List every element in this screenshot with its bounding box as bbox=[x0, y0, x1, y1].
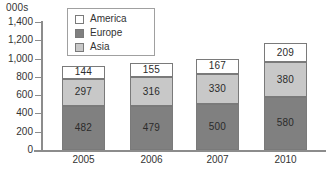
y-axis-tick-mark bbox=[35, 95, 41, 96]
bar-value-label: 380 bbox=[277, 75, 294, 85]
y-axis-tick-label: 1,000 bbox=[0, 53, 33, 64]
y-axis-tick-label: 1,200 bbox=[0, 34, 33, 45]
legend-label: America bbox=[90, 14, 127, 24]
bar-segment-america[interactable]: 155 bbox=[130, 63, 173, 77]
bar-value-label: 500 bbox=[209, 122, 226, 132]
bar-value-label: 167 bbox=[209, 61, 226, 71]
bar-segment-america[interactable]: 144 bbox=[62, 66, 105, 79]
bar-segment-asia[interactable]: 580 bbox=[264, 97, 307, 150]
bar-value-label: 144 bbox=[75, 67, 92, 77]
bar-value-label: 297 bbox=[75, 87, 92, 97]
y-axis-tick-label: 600 bbox=[0, 89, 33, 100]
bar-segment-america[interactable]: 209 bbox=[264, 43, 307, 62]
legend-item[interactable]: Europe bbox=[75, 26, 154, 40]
y-axis-tick-mark bbox=[35, 113, 41, 114]
y-axis-tick-mark bbox=[35, 150, 41, 151]
x-axis-line bbox=[34, 150, 326, 152]
bar-stack[interactable]: 580380209 bbox=[264, 43, 307, 150]
legend-item[interactable]: America bbox=[75, 12, 154, 26]
legend-swatch-europe bbox=[75, 29, 84, 38]
y-axis-tick-mark bbox=[35, 40, 41, 41]
bar-stack[interactable]: 500330167 bbox=[196, 59, 239, 150]
y-axis-tick-mark bbox=[35, 22, 41, 23]
y-axis-tick-label: 400 bbox=[0, 107, 33, 118]
bar-value-label: 209 bbox=[277, 48, 294, 58]
bar-segment-europe[interactable]: 316 bbox=[130, 77, 173, 106]
stacked-bar-chart: 000s 1,4001,2001,0008006004002000 Americ… bbox=[0, 0, 327, 176]
y-axis-tick-mark bbox=[35, 59, 41, 60]
bar-value-label: 155 bbox=[143, 65, 160, 75]
legend-swatch-america bbox=[75, 15, 84, 24]
bar-segment-europe[interactable]: 297 bbox=[62, 79, 105, 106]
y-axis-tick-mark bbox=[35, 77, 41, 78]
bar-value-label: 316 bbox=[143, 87, 160, 97]
y-axis-tick-label: 0 bbox=[0, 144, 33, 155]
x-axis-tick-label: 2006 bbox=[130, 154, 173, 165]
bar-segment-asia[interactable]: 479 bbox=[130, 106, 173, 150]
y-axis-tick-labels: 1,4001,2001,0008006004002000 bbox=[0, 0, 33, 176]
y-axis-tick-mark bbox=[35, 132, 41, 133]
chart-legend: AmericaEuropeAsia bbox=[67, 8, 155, 56]
bar-segment-europe[interactable]: 380 bbox=[264, 62, 307, 97]
bar-stack[interactable]: 482297144 bbox=[62, 66, 105, 150]
bar-segment-asia[interactable]: 500 bbox=[196, 104, 239, 150]
bar-value-label: 482 bbox=[75, 123, 92, 133]
bar-segment-asia[interactable]: 482 bbox=[62, 106, 105, 150]
legend-swatch-asia bbox=[75, 43, 84, 52]
legend-label: Asia bbox=[90, 42, 109, 52]
bar-segment-europe[interactable]: 330 bbox=[196, 74, 239, 104]
bar-value-label: 479 bbox=[143, 123, 160, 133]
x-axis-tick-label: 2005 bbox=[62, 154, 105, 165]
legend-label: Europe bbox=[90, 28, 122, 38]
y-axis-tick-label: 1,400 bbox=[0, 16, 33, 27]
x-axis-tick-label: 2007 bbox=[196, 154, 239, 165]
bar-value-label: 330 bbox=[209, 84, 226, 94]
bar-value-label: 580 bbox=[277, 118, 294, 128]
x-axis-tick-label: 2010 bbox=[264, 154, 307, 165]
bar-segment-america[interactable]: 167 bbox=[196, 59, 239, 74]
bar-stack[interactable]: 479316155 bbox=[130, 63, 173, 150]
y-axis-tick-label: 200 bbox=[0, 126, 33, 137]
y-axis-tick-label: 800 bbox=[0, 71, 33, 82]
legend-item[interactable]: Asia bbox=[75, 40, 154, 54]
